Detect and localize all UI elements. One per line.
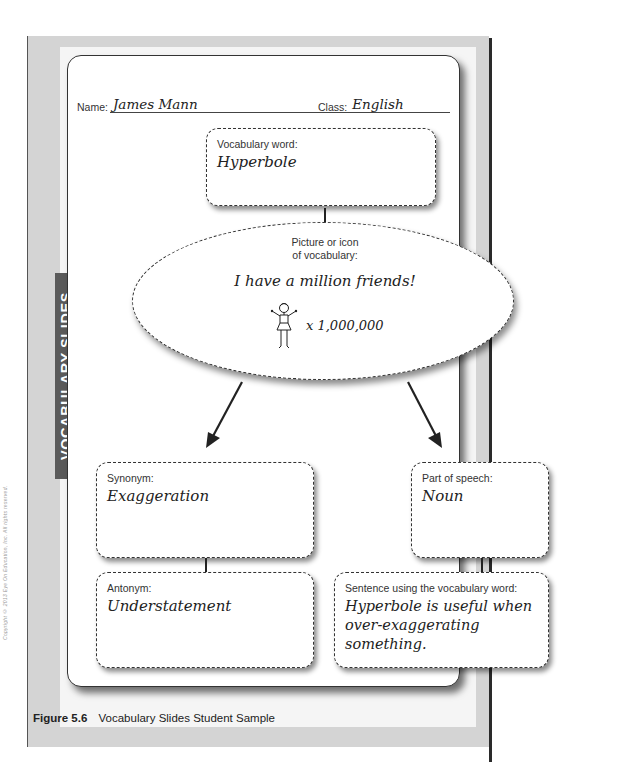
connector-pos-sentence bbox=[481, 558, 483, 573]
copyright-note: Copyright © 2013 Eye On Education, Inc. … bbox=[2, 380, 12, 640]
picture-caption-line2: of vocabulary: bbox=[250, 249, 400, 262]
stick-figure-icon bbox=[266, 300, 302, 352]
connector-synonym-antonym bbox=[205, 558, 207, 573]
sentence-box: Sentence using the vocabulary word: Hype… bbox=[334, 572, 549, 668]
picture-caption: Picture or icon of vocabulary: bbox=[250, 236, 400, 262]
antonym-caption: Antonym: bbox=[107, 582, 303, 595]
arrow-to-synonym-icon bbox=[200, 380, 250, 450]
part-of-speech-caption: Part of speech: bbox=[422, 472, 538, 485]
multiplier-text: x 1,000,000 bbox=[306, 318, 384, 333]
sentence-line-1: Hyperbole is useful when bbox=[345, 597, 538, 616]
class-label: Class: bbox=[318, 101, 347, 113]
synonym-caption: Synonym: bbox=[107, 472, 303, 485]
class-value: English bbox=[349, 96, 450, 113]
connector-vocab-picture bbox=[324, 208, 326, 222]
part-of-speech-box: Part of speech: Noun bbox=[411, 462, 549, 558]
figure-caption: Figure 5.6 Vocabulary Slides Student Sam… bbox=[33, 712, 275, 724]
figure-number: Figure 5.6 bbox=[33, 712, 87, 724]
sentence-line-2: over-exaggerating something. bbox=[345, 616, 538, 654]
picture-caption-line1: Picture or icon bbox=[250, 236, 400, 249]
synonym-box: Synonym: Exaggeration bbox=[96, 462, 314, 558]
panel-left-rule bbox=[27, 36, 28, 747]
vocabulary-word-value: Hyperbole bbox=[217, 153, 425, 171]
antonym-box: Antonym: Understatement bbox=[96, 572, 314, 668]
vocabulary-word-box: Vocabulary word: Hyperbole bbox=[206, 128, 436, 206]
synonym-value: Exaggeration bbox=[107, 487, 303, 505]
part-of-speech-value: Noun bbox=[422, 487, 538, 505]
vocabulary-word-caption: Vocabulary word: bbox=[217, 138, 425, 151]
antonym-value: Understatement bbox=[107, 597, 303, 615]
name-label: Name: bbox=[77, 101, 108, 113]
class-field: Class: English bbox=[318, 96, 450, 113]
picture-text: I have a million friends! bbox=[200, 272, 450, 290]
arrow-to-part-of-speech-icon bbox=[400, 380, 450, 450]
sentence-caption: Sentence using the vocabulary word: bbox=[345, 582, 538, 595]
figure-title: Vocabulary Slides Student Sample bbox=[99, 712, 275, 724]
